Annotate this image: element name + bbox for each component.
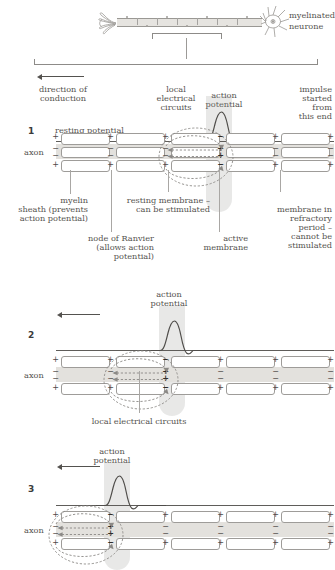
charge-outside-bottom: + — [272, 539, 279, 547]
schwann-nucleus-dot — [226, 25, 228, 27]
schwann-nucleus-dot — [166, 16, 168, 18]
myelin-segment — [61, 147, 110, 158]
charge-outside-bottom: + — [52, 161, 59, 169]
active-membrane-leader — [219, 170, 220, 232]
panel-2-number: 2 — [28, 330, 34, 340]
myelin-segment-inner — [226, 538, 275, 550]
neurone-label-line2: neurone — [289, 22, 335, 32]
myelin-sheath-leader — [70, 170, 71, 194]
charge-inside-lower: − — [52, 152, 59, 160]
panel-3-number: 3 — [28, 484, 34, 494]
panel-2-internal-current-arrows — [109, 370, 171, 383]
myelin-segment-outer — [281, 511, 330, 523]
myelin-segment-inner — [226, 383, 275, 395]
myelin-segment-outer — [171, 511, 220, 523]
charge-outside: + — [217, 511, 224, 519]
schwann-nucleus-dot — [186, 25, 188, 27]
node-of-ranvier-tick — [137, 18, 138, 25]
panel-3-direction-arrow-line — [62, 466, 100, 467]
charge-inside-lower: − — [217, 530, 224, 538]
myelin-segment-outer — [61, 133, 110, 145]
panel-2-axon-label: axon — [24, 370, 44, 380]
charge-outside: + — [272, 133, 279, 141]
myelin-segment-inner — [171, 538, 220, 550]
node-of-ranvier-tick — [157, 18, 158, 25]
myelin-segment-outer — [226, 356, 275, 368]
myelin-segment-inner — [281, 383, 330, 395]
neuron-axon-shaft — [117, 18, 262, 27]
panel-1-axon-label: axon — [24, 147, 44, 157]
node-of-ranvier-tick — [177, 18, 178, 25]
charge-outside: + — [217, 356, 224, 364]
charge-outside-bottom: + — [52, 384, 59, 392]
refractory-leader — [280, 170, 281, 192]
charge-inside-lower: − — [327, 375, 334, 383]
charge-inside-lower: − — [52, 375, 59, 383]
charge-inside-lower: − — [327, 530, 334, 538]
direction-arrow-head — [37, 74, 42, 80]
impulse-start-line4: this end — [262, 112, 332, 122]
charge-outside: + — [52, 133, 59, 141]
refractory-caption-line5: stimulated — [252, 241, 332, 251]
myelin-sheath-caption-line3: action potential) — [2, 214, 88, 224]
schwann-nucleus-dot — [206, 16, 208, 18]
panel-3-direction-arrow-head — [57, 464, 62, 470]
charge-outside-bottom: + — [327, 539, 334, 547]
charge-outside-bottom: + — [327, 161, 334, 169]
charge-outside: + — [52, 356, 59, 364]
myelin-segment-inner — [281, 160, 330, 172]
charge-outside-bottom: + — [327, 384, 334, 392]
charge-inside-lower: − — [327, 152, 334, 160]
node-of-ranvier-tick — [197, 18, 198, 25]
charge-outside: + — [107, 133, 114, 141]
panel-3-axon-label: axon — [24, 525, 44, 535]
charge-outside: + — [272, 511, 279, 519]
charge-outside: + — [327, 356, 334, 364]
schwann-nucleus-dot — [146, 25, 148, 27]
direction-arrow-line — [42, 76, 84, 77]
panel-3-internal-current-arrows — [54, 525, 116, 538]
charge-outside-bottom: + — [217, 384, 224, 392]
charge-outside: + — [162, 511, 169, 519]
myelin-segment-outer — [281, 356, 330, 368]
charge-inside-lower: − — [272, 152, 279, 160]
charge-outside-bottom: + — [217, 539, 224, 547]
charge-outside-bottom: + — [162, 539, 169, 547]
charge-outside: + — [327, 511, 334, 519]
charge-inside-lower: − — [162, 530, 169, 538]
direction-of-conduction-line2: conduction — [18, 94, 108, 104]
resting-membrane-leader — [168, 170, 169, 192]
myelin-segment — [281, 147, 330, 158]
myelin-segment-outer — [226, 511, 275, 523]
panel-2-local-circuits-leader — [139, 371, 140, 413]
zoom-bracket-upper — [152, 33, 222, 39]
active-membrane-caption-line2: membrane — [176, 243, 248, 253]
schwann-nucleus-dot — [246, 16, 248, 18]
resting-membrane-caption-line2: can be stimulated — [110, 205, 210, 215]
panel-1-internal-current-arrows — [164, 147, 226, 160]
myelin-segment-outer — [281, 133, 330, 145]
charge-inside-lower: − — [272, 530, 279, 538]
charge-inside-lower: − — [217, 375, 224, 383]
panel-2-axon-band — [56, 367, 334, 382]
charge-outside-bottom: + — [107, 161, 114, 169]
charge-outside-bottom: + — [272, 161, 279, 169]
schwann-nucleus-dot — [126, 16, 128, 18]
panel-2-direction-arrow-head — [57, 312, 62, 318]
zoom-bracket-stem — [186, 38, 187, 59]
node-of-ranvier-tick — [237, 18, 238, 25]
panel-2-direction-arrow-line — [62, 314, 100, 315]
node-of-ranvier-caption-line3: potential) — [52, 252, 154, 262]
cell-body-icon — [258, 4, 292, 40]
charge-inside-lower: − — [272, 375, 279, 383]
node-of-ranvier-tick — [217, 18, 218, 25]
myelin-segment-inner — [61, 160, 110, 172]
charge-outside: + — [272, 356, 279, 364]
panel-span-bracket — [34, 59, 318, 65]
neurone-label-line1: myelinated — [289, 11, 335, 21]
charge-inside-lower: − — [107, 152, 114, 160]
charge-outside-bottom: + — [272, 384, 279, 392]
panel-1-number: 1 — [28, 126, 34, 136]
charge-outside: + — [327, 133, 334, 141]
myelin-segment-inner — [281, 538, 330, 550]
